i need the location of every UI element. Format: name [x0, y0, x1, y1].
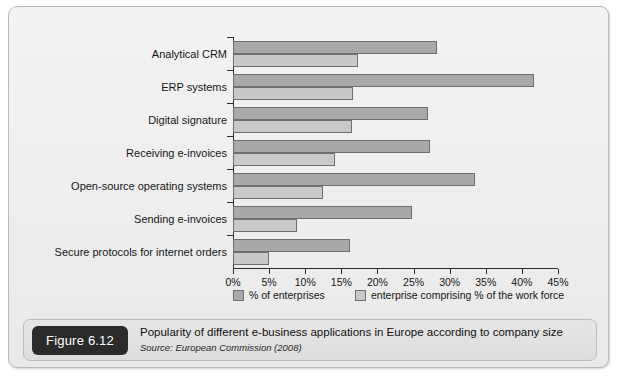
- bar-enterprises: [233, 173, 475, 186]
- bars-layer: [9, 7, 610, 307]
- bar-enterprises: [233, 107, 428, 120]
- bar-work-force: [233, 186, 323, 199]
- caption-text-block: Popularity of different e-business appli…: [140, 325, 588, 354]
- bar-work-force: [233, 87, 353, 100]
- figure-caption-bar: Figure 6.12 Popularity of different e-bu…: [23, 319, 597, 361]
- legend-label-series-b: enterprise comprising % of the work forc…: [371, 289, 564, 301]
- figure-number-badge: Figure 6.12: [32, 326, 128, 355]
- legend-item-enterprises: % of enterprises: [233, 289, 325, 301]
- bar-work-force: [233, 252, 269, 265]
- chart-plot-area: Analytical CRMERP systemsDigital signatu…: [9, 7, 610, 307]
- bar-work-force: [233, 219, 297, 232]
- bar-enterprises: [233, 239, 350, 252]
- legend-swatch-icon-series-a: [233, 290, 244, 301]
- legend-label-series-a: % of enterprises: [249, 289, 325, 301]
- figure-caption-source: Source: European Commission (2008): [140, 341, 588, 354]
- bar-enterprises: [233, 74, 534, 87]
- bar-enterprises: [233, 41, 437, 54]
- bar-enterprises: [233, 206, 412, 219]
- legend-item-work-force: enterprise comprising % of the work forc…: [355, 289, 564, 301]
- bar-work-force: [233, 120, 352, 133]
- bar-work-force: [233, 54, 358, 67]
- figure-panel: Analytical CRMERP systemsDigital signatu…: [8, 6, 609, 368]
- figure-caption-title: Popularity of different e-business appli…: [140, 325, 588, 340]
- bar-enterprises: [233, 140, 430, 153]
- bar-work-force: [233, 153, 335, 166]
- legend-swatch-icon-series-b: [355, 290, 366, 301]
